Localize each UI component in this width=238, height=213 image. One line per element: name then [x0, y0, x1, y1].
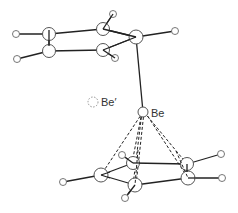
hydrogen-atom: [172, 28, 179, 35]
be-bond: [136, 37, 143, 112]
be-dashed-interactions: [101, 112, 188, 185]
be-label: Be: [151, 107, 164, 119]
hydrogen-atom: [60, 179, 67, 186]
top-ring-bonds: [16, 14, 175, 59]
hydrogen-atom: [122, 195, 129, 202]
hydrogen-atom: [219, 175, 226, 182]
be-atom: [138, 107, 148, 117]
bottom-ring-bonds: [63, 154, 222, 198]
top-ring-atoms: [13, 11, 179, 63]
be-prime-label: Be′: [101, 96, 117, 108]
bottom-ring-atoms: [60, 151, 226, 202]
be-prime-atom: [88, 97, 98, 107]
hydrogen-atom: [218, 151, 225, 158]
carbon-atom: [43, 45, 56, 58]
hydrogen-atom: [14, 56, 21, 63]
hydrogen-atom: [119, 152, 126, 159]
hydrogen-atom: [13, 31, 20, 38]
molecular-structure-diagram: Be′ Be: [0, 0, 238, 213]
